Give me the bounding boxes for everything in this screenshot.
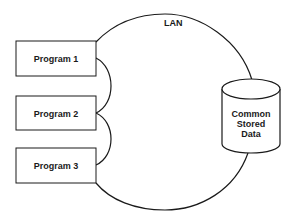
storage-cylinder-top	[222, 79, 280, 99]
lan-ring-bottom-arc	[96, 153, 248, 210]
program-box-1[interactable]: Program 1	[16, 41, 96, 76]
storage-cylinder[interactable]: Common Stored Data	[222, 79, 280, 153]
lan-label: LAN	[164, 18, 183, 28]
program-box-2-label: Program 2	[34, 109, 79, 119]
program-box-3[interactable]: Program 3	[16, 148, 96, 183]
storage-label-line-2: Stored	[237, 119, 266, 129]
storage-label-line-1: Common	[232, 109, 271, 119]
program-box-2[interactable]: Program 2	[16, 96, 96, 130]
program-box-3-label: Program 3	[34, 161, 79, 171]
lan-diagram: LAN Program 1 Program 2 Program 3 Common…	[0, 0, 297, 216]
lan-link-2-3	[96, 113, 111, 165]
storage-label-line-3: Data	[241, 129, 262, 139]
program-box-1-label: Program 1	[34, 54, 79, 64]
lan-link-1-2	[96, 58, 111, 113]
